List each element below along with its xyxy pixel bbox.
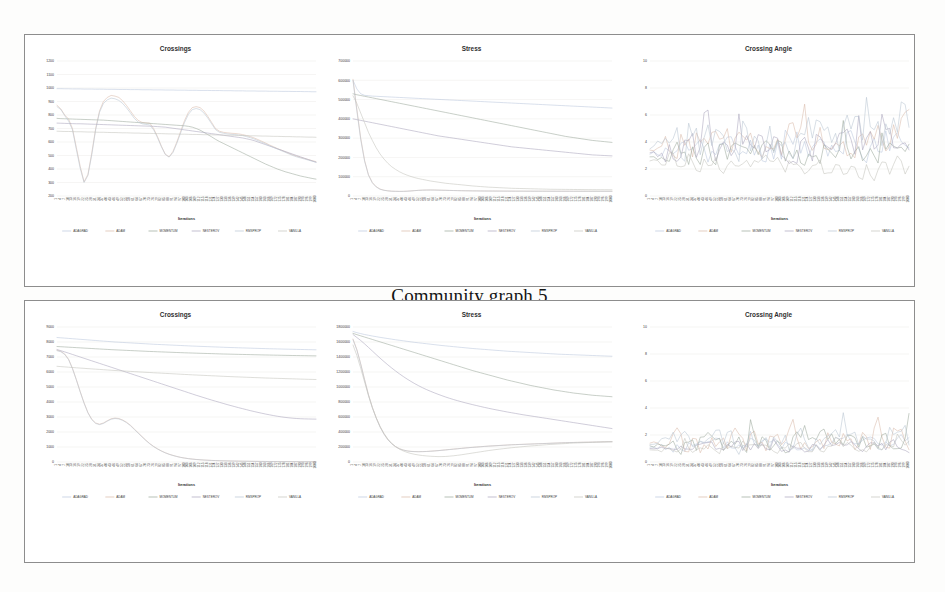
y-axis-tick: 2000 [46,430,54,434]
y-axis-tick: 500 [48,154,54,158]
chart-svg: Crossing Angle10864201471013161922252831… [620,305,917,510]
y-axis-tick: 10 [643,325,647,329]
chart-stress-bottom: Stress1800000160000014000001200000100000… [321,301,617,506]
legend-label-vanilla: VANILLA [585,495,597,499]
figure-panel-bottom: Crossings9000800070006000500040003000200… [24,300,915,563]
chart-svg: Stress7000006000005000004000003000002000… [323,39,620,244]
chart-title: Crossings [160,311,192,319]
chart-title: Crossing Angle [745,45,792,53]
y-axis-tick: 700000 [339,59,351,63]
chart-stress-top: Stress7000006000005000004000003000002000… [321,35,617,240]
chart-crossing-angle-top: Crossing Angle10864201471013161922252831… [618,35,914,240]
y-axis-tick: 300000 [339,136,351,140]
y-axis-tick: 1100 [46,73,54,77]
y-axis-tick: 600000 [339,79,351,83]
legend-label-momentum: MOMENTUM [752,495,770,499]
x-axis-tick: 1000 [906,461,910,468]
chart-title: Crossing Angle [745,311,792,319]
x-axis-label: Iterations [771,217,788,221]
legend-label-rmsprop: RMSPROP [246,495,261,499]
figure-panel-top: Crossings1200110010009008007006005004003… [24,34,915,287]
y-axis-tick: 0 [348,460,350,464]
legend-label-rmsprop: RMSPROP [542,495,557,499]
y-axis-tick: 400 [48,167,54,171]
y-axis-tick: 1800000 [337,325,351,329]
y-axis-tick: 4 [645,406,647,410]
legend-label-adagrad: ADAGRAD [370,229,386,233]
chart-crossing-angle-bottom: Crossing Angle10864201471013161922252831… [618,301,914,506]
y-axis-tick: 8 [645,86,647,90]
y-axis-tick: 800000 [339,400,351,404]
chart-title: Crossings [160,45,192,53]
chart-svg: Crossings9000800070006000500040003000200… [27,305,324,510]
x-axis-label: Iterations [474,483,491,487]
legend-label-adam: ADAM [116,229,125,233]
legend-label-adam: ADAM [709,229,718,233]
chart-title: Stress [462,45,482,52]
x-axis-label: Iterations [474,217,491,221]
y-axis-tick: 10 [643,59,647,63]
y-axis-tick: 7000 [46,355,54,359]
legend-label-adagrad: ADAGRAD [73,495,89,499]
x-axis-tick: 1000 [906,195,910,202]
y-axis-tick: 1600000 [337,340,351,344]
y-axis-tick: 900 [48,100,54,104]
y-axis-tick: 1200000 [337,370,351,374]
y-axis-tick: 2 [645,433,647,437]
y-axis-tick: 0 [645,194,647,198]
y-axis-tick: 8000 [46,340,54,344]
legend-label-momentum: MOMENTUM [752,229,770,233]
chart-svg: Crossings1200110010009008007006005004003… [27,39,324,244]
legend-label-rmsprop: RMSPROP [839,229,854,233]
y-axis-tick: 8 [645,352,647,356]
x-axis-tick: 1000 [313,195,317,202]
y-axis-tick: 400000 [339,430,351,434]
y-axis-tick: 400000 [339,117,351,121]
y-axis-tick: 500000 [339,98,351,102]
y-axis-tick: 1400000 [337,355,351,359]
y-axis-tick: 600 [48,140,54,144]
y-axis-tick: 2 [645,167,647,171]
legend-label-rmsprop: RMSPROP [246,229,261,233]
legend-label-momentum: MOMENTUM [160,229,178,233]
legend-label-nesterov: NESTEROV [795,495,812,499]
legend-label-vanilla: VANILLA [585,229,597,233]
y-axis-tick: 1000 [46,445,54,449]
legend-label-momentum: MOMENTUM [160,495,178,499]
x-axis-label: Iterations [178,217,195,221]
legend-label-nesterov: NESTEROV [795,229,812,233]
chart-svg: Crossing Angle10864201471013161922252831… [620,39,917,244]
chart-svg: Stress1800000160000014000001200000100000… [323,305,620,510]
chart-crossings-bottom: Crossings9000800070006000500040003000200… [25,301,321,506]
legend-label-adam: ADAM [709,495,718,499]
y-axis-tick: 200000 [339,156,351,160]
y-axis-tick: 800 [48,113,54,117]
legend-label-adam: ADAM [116,495,125,499]
legend-label-nesterov: NESTEROV [203,229,220,233]
x-axis-tick: 1000 [609,461,613,468]
y-axis-tick: 200000 [339,445,351,449]
charts-row-top: Crossings1200110010009008007006005004003… [25,35,914,286]
y-axis-tick: 700 [48,127,54,131]
y-axis-tick: 6000 [46,370,54,374]
legend-label-adagrad: ADAGRAD [73,229,89,233]
legend-label-rmsprop: RMSPROP [839,495,854,499]
legend-label-nesterov: NESTEROV [499,229,516,233]
y-axis-tick: 1200 [46,59,54,63]
legend-label-adagrad: ADAGRAD [666,495,682,499]
legend-label-rmsprop: RMSPROP [542,229,557,233]
y-axis-tick: 1000 [46,86,54,90]
y-axis-tick: 6 [645,379,647,383]
y-axis-tick: 0 [348,194,350,198]
y-axis-tick: 300 [48,181,54,185]
legend-label-vanilla: VANILLA [289,495,301,499]
y-axis-tick: 0 [52,460,54,464]
y-axis-tick: 200 [48,194,54,198]
y-axis-tick: 3000 [46,415,54,419]
legend-label-nesterov: NESTEROV [203,495,220,499]
legend-label-adagrad: ADAGRAD [666,229,682,233]
x-axis-label: Iterations [178,483,195,487]
chart-crossings-top: Crossings1200110010009008007006005004003… [25,35,321,240]
legend-label-vanilla: VANILLA [882,495,894,499]
y-axis-tick: 1000000 [337,385,351,389]
